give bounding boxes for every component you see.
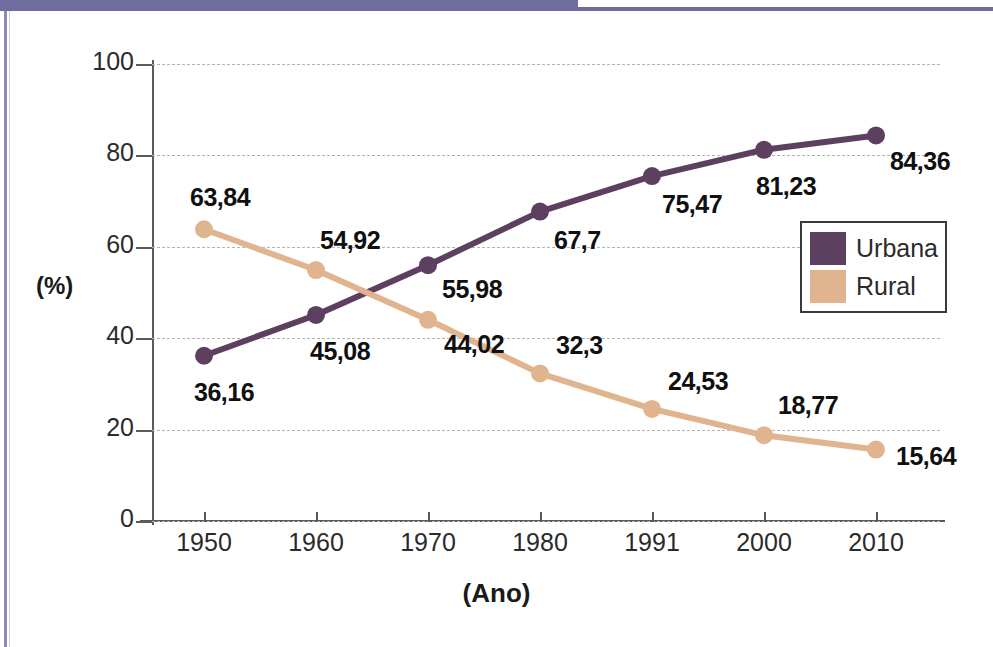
- legend-item-urbana[interactable]: Urbana: [810, 229, 945, 267]
- data-point-rural: [643, 400, 661, 418]
- data-label: 55,98: [442, 275, 502, 304]
- x-axis-tick: [876, 512, 878, 522]
- x-axis-tick-label: 1980: [485, 528, 595, 557]
- y-axis-tick: [136, 155, 153, 157]
- data-label: 44,02: [444, 330, 504, 359]
- data-label: 24,53: [668, 367, 728, 396]
- x-axis-tick-label: 1960: [261, 528, 371, 557]
- left-margin-rule-thin: [9, 11, 10, 647]
- legend-swatch-urbana: [810, 232, 846, 265]
- data-point-rural: [531, 364, 549, 382]
- chart-page: (%) 020406080100 36,1645,0855,9867,775,4…: [0, 0, 993, 647]
- data-point-rural: [755, 426, 773, 444]
- data-label: 15,64: [896, 442, 956, 471]
- data-point-urbana: [755, 141, 773, 159]
- x-axis-tick: [316, 512, 318, 522]
- data-label: 84,36: [890, 147, 950, 176]
- x-axis-title: (Ano): [0, 578, 993, 609]
- y-axis-title: (%): [36, 272, 73, 300]
- x-axis-tick-label: 1950: [149, 528, 259, 557]
- series-line-rural: [204, 229, 876, 449]
- y-axis-tick-label: 60: [74, 230, 134, 259]
- y-axis-tick-label: 20: [74, 413, 134, 442]
- data-point-rural: [307, 261, 325, 279]
- legend-label-rural: Rural: [856, 272, 916, 301]
- y-axis-tick-label: 40: [74, 321, 134, 350]
- header-accent-band: [0, 0, 578, 11]
- x-axis-tick-label: 1991: [597, 528, 707, 557]
- x-axis-tick: [540, 512, 542, 522]
- y-axis-tick-label: 0: [74, 504, 134, 533]
- data-label: 45,08: [310, 337, 370, 366]
- data-label: 75,47: [662, 190, 722, 219]
- data-point-rural: [867, 441, 885, 459]
- data-label: 36,16: [194, 378, 254, 407]
- data-point-urbana: [195, 347, 213, 365]
- y-axis-tick: [136, 247, 153, 249]
- x-axis-tick: [764, 512, 766, 522]
- legend-label-urbana: Urbana: [856, 234, 938, 263]
- x-axis-tick: [428, 512, 430, 522]
- y-axis-tick: [136, 430, 153, 432]
- data-point-rural: [419, 311, 437, 329]
- chart-legend: Urbana Rural: [800, 221, 947, 313]
- y-axis-tick-label: 100: [74, 47, 134, 76]
- data-point-urbana: [643, 167, 661, 185]
- series-line-urbana: [204, 135, 876, 355]
- x-axis-tick-label: 1970: [373, 528, 483, 557]
- data-label: 63,84: [190, 183, 250, 212]
- y-axis-tick: [136, 64, 153, 66]
- x-axis-tick: [652, 512, 654, 522]
- data-point-urbana: [419, 256, 437, 274]
- data-label: 81,23: [756, 172, 816, 201]
- gridline: [152, 521, 940, 522]
- legend-item-rural[interactable]: Rural: [810, 267, 945, 305]
- data-point-urbana: [867, 126, 885, 144]
- y-axis-tick: [136, 338, 153, 340]
- x-axis-tick: [204, 512, 206, 522]
- data-point-urbana: [531, 203, 549, 221]
- left-margin-rule: [4, 11, 7, 647]
- data-label: 54,92: [320, 226, 380, 255]
- y-axis-tick-label: 80: [74, 138, 134, 167]
- x-axis-tick-label: 2010: [821, 528, 931, 557]
- x-axis-tick-label: 2000: [709, 528, 819, 557]
- data-point-rural: [195, 220, 213, 238]
- data-label: 18,77: [778, 391, 838, 420]
- header-accent-rule: [578, 7, 993, 11]
- data-label: 67,7: [554, 226, 601, 255]
- data-point-urbana: [307, 306, 325, 324]
- legend-swatch-rural: [810, 270, 846, 303]
- data-label: 32,3: [556, 331, 603, 360]
